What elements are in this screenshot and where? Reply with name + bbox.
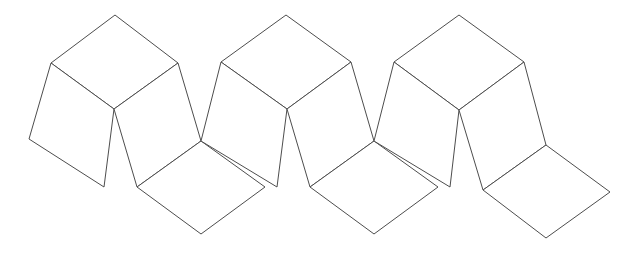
figure-canvas: Zigzag strip of rhombi Line drawing of a… <box>0 0 637 255</box>
rhombic-zigzag-figure: Zigzag strip of rhombi Line drawing of a… <box>0 0 637 255</box>
